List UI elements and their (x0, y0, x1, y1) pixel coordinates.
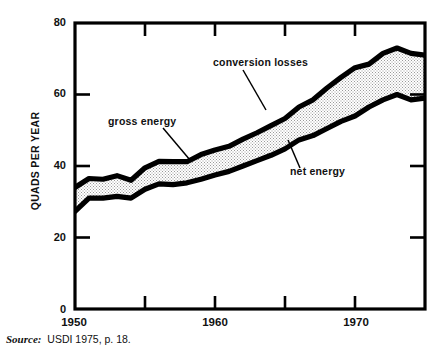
annotation-conversion-losses: conversion losses (213, 56, 308, 68)
annotation-net-energy: net energy (290, 165, 345, 177)
gross-energy-leader-line (163, 128, 190, 160)
conversion-losses-band (75, 48, 425, 211)
source-text: USDI 1975, p. 18. (47, 333, 130, 345)
y-axis-ticks-right (410, 95, 425, 238)
x-axis-ticks-top (145, 23, 355, 36)
y-axis-ticks (75, 95, 90, 238)
plot-area (0, 0, 442, 353)
source-label: Source: (6, 333, 41, 345)
source-note: Source: USDI 1975, p. 18. (6, 333, 131, 345)
conversion-losses-leader-line (243, 70, 266, 110)
x-axis-ticks-bottom (145, 296, 355, 309)
energy-chart-figure: QUADS PER YEAR 80 60 40 20 0 1950 1960 1… (0, 0, 442, 353)
annotation-gross-energy: gross energy (108, 115, 176, 127)
